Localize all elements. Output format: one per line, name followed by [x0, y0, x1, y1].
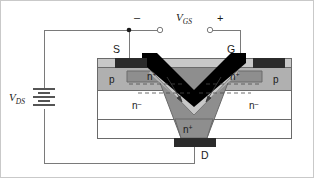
- label-drain: D: [201, 149, 209, 161]
- n-plus-drain-foot: [175, 119, 213, 138]
- label-minus: –: [134, 11, 141, 23]
- label-p-right: p: [273, 74, 279, 85]
- figure-canvas: VGS – + VDS S G D p p n+ n+ n– n– n+: [0, 0, 314, 178]
- label-gate: G: [227, 43, 235, 55]
- label-vgs: VGS: [176, 11, 192, 26]
- source-contact-metal: [115, 58, 147, 68]
- junction-dot: [127, 28, 132, 33]
- gate-contact-metal-right: [253, 58, 285, 68]
- label-vgs-sub: GS: [183, 17, 192, 26]
- terminal-circle-plus[interactable]: [207, 27, 212, 32]
- label-n-plus-left-sup: +: [153, 71, 157, 78]
- label-vds: VDS: [9, 91, 25, 106]
- label-n-plus-drain-sup: +: [189, 124, 193, 131]
- label-n-minus-left-sup: –: [138, 100, 142, 107]
- drain-contact-metal: [174, 138, 216, 147]
- battery-symbol-vds: [33, 89, 55, 105]
- terminal-circle-minus[interactable]: [157, 27, 162, 32]
- label-n-minus-right-sup: –: [255, 100, 259, 107]
- label-p-left: p: [109, 74, 115, 85]
- label-plus: +: [217, 12, 223, 24]
- label-vds-sub: DS: [15, 97, 25, 106]
- label-n-plus-right-sup: +: [236, 71, 240, 78]
- label-source: S: [113, 43, 120, 55]
